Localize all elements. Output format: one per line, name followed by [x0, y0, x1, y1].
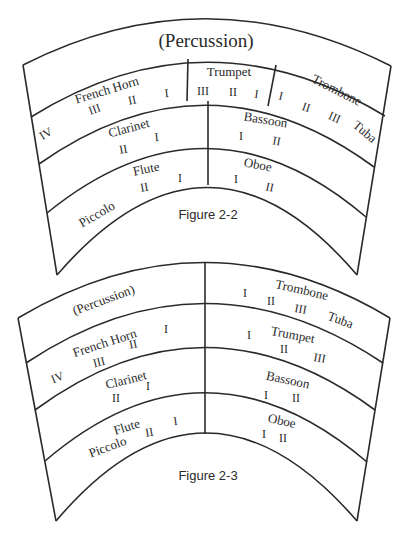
left-edge	[23, 65, 57, 275]
figure-caption: Figure 2-3	[178, 468, 237, 483]
french-horn-part-iv: IV	[37, 124, 55, 143]
flute-part-i: I	[172, 414, 178, 428]
trumpet-part-ii: II	[280, 342, 288, 356]
right-edge	[357, 318, 390, 521]
oboe-label: Oboe	[243, 155, 274, 175]
clarinet-part-ii: II	[112, 391, 120, 405]
trumpet-part-ii: II	[229, 85, 237, 99]
french-horn-part-iii: III	[91, 354, 106, 371]
orchestra-seating-diagrams: (Percussion) French Horn IV III II I Tru…	[0, 0, 406, 543]
tuba-label: Tuba	[350, 117, 380, 146]
oboe-part-i: I	[262, 427, 266, 441]
trumpet-label: Trumpet	[270, 323, 317, 346]
bassoon-part-ii: II	[272, 133, 282, 148]
clarinet-label: Clarinet	[107, 115, 152, 140]
trumpet-part-iii: III	[313, 350, 327, 366]
flute-part-ii: II	[139, 179, 149, 194]
trombone-part-iii: III	[326, 109, 343, 127]
trombone-part-ii: II	[300, 99, 312, 115]
flute-part-i: I	[178, 171, 182, 185]
piccolo-label: Piccolo	[87, 433, 129, 460]
trumpet-label: Trumpet	[207, 64, 252, 79]
bassoon-label: Bassoon	[243, 109, 289, 131]
figure-2-3: (Percussion) French Horn IV III II I Cla…	[18, 262, 390, 521]
french-horn-part-ii: II	[127, 92, 138, 107]
trumpet-left-divider	[187, 59, 188, 101]
trombone-part-iii: III	[294, 301, 308, 317]
percussion-label: (Percussion)	[159, 30, 254, 52]
oboe-part-i: I	[234, 172, 238, 186]
oboe-part-ii: II	[264, 179, 275, 194]
clarinet-part-i: I	[146, 379, 150, 393]
oboe-part-ii: II	[279, 431, 287, 445]
trumpet-part-i: I	[247, 328, 251, 342]
trombone-label: Trombone	[274, 276, 330, 303]
french-horn-part-i: I	[164, 86, 169, 100]
flute-label: Flute	[112, 416, 142, 438]
french-horn-part-iv: IV	[49, 368, 66, 386]
clarinet-label: Clarinet	[104, 367, 149, 392]
piccolo-label: Piccolo	[76, 198, 117, 230]
trombone-part-ii: II	[267, 294, 275, 308]
trombone-label: Trombone	[310, 71, 365, 109]
french-horn-part-iii: III	[87, 101, 103, 118]
tuba-label: Tuba	[326, 308, 356, 331]
trombone-part-i: I	[243, 286, 247, 300]
flute-part-ii: II	[144, 424, 154, 439]
bassoon-part-ii: II	[292, 391, 300, 405]
trombone-part-i: I	[277, 89, 284, 104]
trumpet-right-divider	[268, 65, 276, 106]
bassoon-part-i: I	[264, 388, 268, 402]
bassoon-part-i: I	[239, 129, 243, 143]
bassoon-label: Bassoon	[265, 368, 312, 392]
trumpet-part-iii: III	[197, 84, 209, 98]
figure-2-2: (Percussion) French Horn IV III II I Tru…	[23, 19, 391, 275]
trumpet-part-i: I	[254, 87, 260, 101]
figure-caption: Figure 2-2	[178, 207, 237, 222]
clarinet-part-ii: II	[118, 141, 128, 156]
clarinet-part-i: I	[154, 130, 159, 144]
french-horn-part-i: I	[164, 322, 168, 336]
